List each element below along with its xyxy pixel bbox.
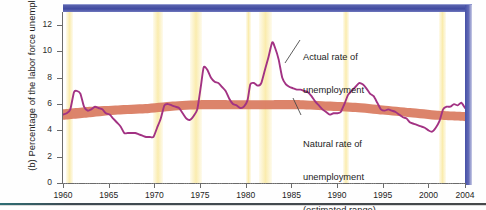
actual-rate-annotation-line1: Actual rate of xyxy=(303,52,364,63)
x-tick-label: 1965 xyxy=(99,190,118,200)
natural-rate-annotation: Natural rate of unemployment (estimated … xyxy=(303,117,376,210)
chart-figure: (b) Percentage of the labor force unempl… xyxy=(0,0,486,210)
x-tick-label: 1980 xyxy=(236,190,255,200)
plot-area xyxy=(63,12,465,183)
x-tick-mark xyxy=(428,184,429,188)
y-tick-label: 12 xyxy=(32,20,52,28)
natural-rate-annotation-line2: unemployment xyxy=(303,172,376,183)
actual-rate-annotation-line2: unemployment xyxy=(303,85,364,96)
natural-rate-annotation-line1: Natural rate of xyxy=(303,139,376,150)
x-tick-label: 1960 xyxy=(54,190,73,200)
frame-right-bar xyxy=(465,5,472,185)
actual-rate-line xyxy=(63,42,465,137)
x-tick-mark xyxy=(383,184,384,188)
x-tick-label: 1995 xyxy=(373,190,392,200)
frame-top-bar xyxy=(63,5,472,12)
x-tick-mark xyxy=(465,184,466,188)
y-tick-label: 10 xyxy=(32,46,52,54)
y-tick-label: 6 xyxy=(32,99,52,107)
x-tick-label: 1975 xyxy=(191,190,210,200)
y-tick-label: 2 xyxy=(32,152,52,160)
x-tick-mark xyxy=(109,184,110,188)
chart-lines xyxy=(63,12,465,183)
page-bottom-rule-secondary xyxy=(0,205,486,206)
actual-rate-annotation: Actual rate of unemployment xyxy=(303,30,364,118)
x-tick-label: 2004 xyxy=(456,190,475,200)
x-tick-label: 1985 xyxy=(282,190,301,200)
x-tick-mark xyxy=(63,184,64,188)
x-tick-mark xyxy=(154,184,155,188)
y-tick-label: 0 xyxy=(32,178,52,186)
y-tick-label: 8 xyxy=(32,73,52,81)
x-tick-label: 2000 xyxy=(419,190,438,200)
y-tick-label: 4 xyxy=(32,125,52,133)
x-tick-label: 1970 xyxy=(145,190,164,200)
x-tick-mark xyxy=(246,184,247,188)
x-tick-mark xyxy=(200,184,201,188)
x-tick-mark xyxy=(291,184,292,188)
